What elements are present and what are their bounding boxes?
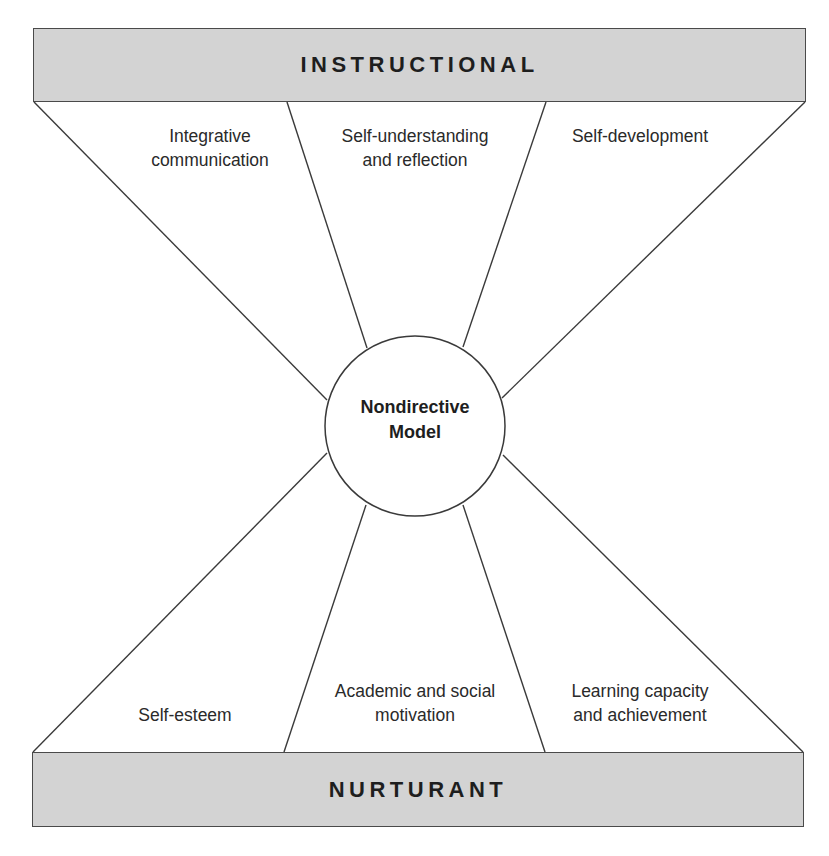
effect-line: Academic and social [310,679,520,703]
effect-self-esteem: Self-esteem [115,703,255,727]
effect-self-development: Self-development [555,124,725,148]
effect-academic-social-motivation: Academic and social motivation [310,679,520,727]
effect-line: Integrative [130,124,290,148]
nurturant-bar: NURTURANT [32,752,804,827]
center-model-label: Nondirective Model [325,395,505,445]
nurturant-label: NURTURANT [329,777,508,803]
effect-line: Self-esteem [115,703,255,727]
center-line1: Nondirective [325,395,505,420]
effect-line: communication [130,148,290,172]
effect-self-understanding: Self-understanding and reflection [320,124,510,172]
effect-line: Learning capacity [545,679,735,703]
effect-integrative-communication: Integrative communication [130,124,290,172]
effect-line: and achievement [545,703,735,727]
center-line2: Model [325,420,505,445]
effect-line: and reflection [320,148,510,172]
effect-line: Self-development [555,124,725,148]
effect-line: motivation [310,703,520,727]
effect-line: Self-understanding [320,124,510,148]
effect-learning-capacity: Learning capacity and achievement [545,679,735,727]
